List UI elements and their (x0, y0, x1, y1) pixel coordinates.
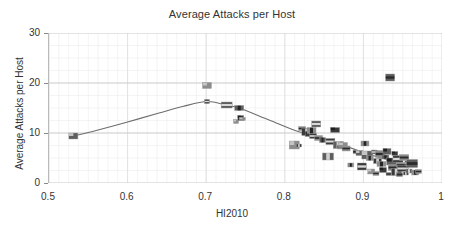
data-point-marker (239, 118, 245, 121)
data-point-marker (380, 168, 387, 173)
data-point-marker (69, 133, 78, 139)
y-axis-title: Average Attacks per Host (14, 39, 25, 189)
x-axis-title: HI2010 (0, 208, 464, 219)
plot-area (48, 33, 441, 183)
data-point-marker (406, 169, 412, 173)
data-point-marker (202, 83, 211, 89)
data-point-marker (204, 100, 209, 104)
data-point-marker (221, 102, 232, 108)
x-tick-label: 1 (438, 191, 444, 202)
y-tick-mark (44, 133, 48, 134)
data-point-marker (296, 144, 301, 147)
data-point-marker (331, 128, 340, 133)
y-tick-mark (44, 33, 48, 34)
data-point-marker (342, 146, 350, 151)
x-tick-label: 0.6 (120, 191, 134, 202)
x-tick-label: 0.5 (41, 191, 55, 202)
y-tick-label: 30 (2, 27, 40, 38)
chart-title: Average Attacks per Host (0, 8, 464, 20)
data-point-marker (320, 138, 326, 143)
y-tick-mark (44, 83, 48, 84)
data-point-marker (386, 74, 395, 81)
data-point-marker (323, 153, 334, 160)
data-point-marker (312, 121, 321, 127)
data-point-marker (392, 152, 398, 156)
data-point-marker (415, 170, 421, 174)
data-point-marker (348, 163, 354, 167)
data-point-marker (386, 173, 391, 176)
data-point-marker (383, 149, 391, 155)
data-point-marker (397, 173, 403, 177)
x-tick-label: 0.7 (198, 191, 212, 202)
chart-figure: Average Attacks per Host 0102030 0.50.60… (0, 0, 464, 236)
data-layer (49, 33, 442, 183)
x-tick-label: 0.9 (355, 191, 369, 202)
data-point-marker (357, 163, 366, 170)
y-tick-mark (44, 183, 48, 184)
data-point-marker (377, 162, 386, 167)
data-point-marker (361, 141, 369, 146)
data-point-marker (366, 156, 373, 161)
data-point-marker (373, 172, 379, 176)
data-point-marker (235, 106, 244, 111)
data-point-marker (307, 128, 316, 134)
data-point-marker (407, 160, 418, 168)
x-tick-label: 0.8 (277, 191, 291, 202)
